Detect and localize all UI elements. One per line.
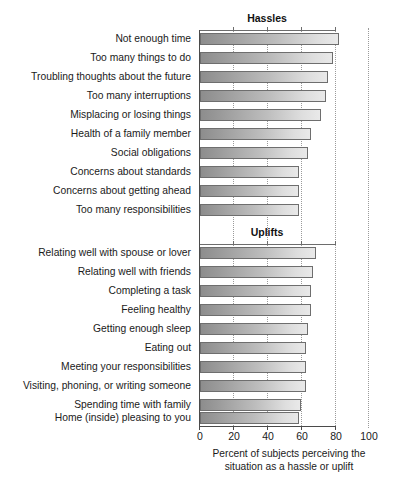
rule-tick-40 <box>267 241 268 245</box>
x-axis-caption-line1: Percent of subjects perceiving the <box>196 447 382 460</box>
bar-uplifts-4 <box>200 323 308 335</box>
category-label: Health of a family member <box>0 127 195 141</box>
category-label: Relating well with friends <box>0 265 195 279</box>
bar-uplifts-6 <box>200 361 306 373</box>
bar-hassles-9 <box>200 204 299 216</box>
category-label: Social obligations <box>0 146 195 160</box>
category-label: Concerns about standards <box>0 165 195 179</box>
category-label: Troubling thoughts about the future <box>0 70 195 84</box>
gridline-80 <box>335 28 336 428</box>
bar-hassles-7 <box>200 166 299 178</box>
category-label: Too many responsibilities <box>0 203 195 217</box>
bar-hassles-5 <box>200 128 311 140</box>
category-label: Eating out <box>0 341 195 355</box>
category-label: Meeting your responsibilities <box>0 360 195 374</box>
rule-tick-60 <box>301 27 302 31</box>
axis-tick-0 <box>199 426 200 430</box>
x-tick-label-100: 100 <box>360 430 378 442</box>
axis-tick-80 <box>335 426 336 430</box>
category-label: Completing a task <box>0 284 195 298</box>
category-label: Too many interruptions <box>0 89 195 103</box>
x-axis-caption: Percent of subjects perceiving the situa… <box>196 447 382 473</box>
category-label: Home (inside) pleasing to you <box>0 411 195 425</box>
value-axis <box>199 426 335 427</box>
category-label: Concerns about getting ahead <box>0 184 195 198</box>
axis-tick-40 <box>267 426 268 430</box>
bar-hassles-3 <box>200 90 326 102</box>
axis-tick-20 <box>233 426 234 430</box>
x-tick-label-20: 20 <box>228 430 240 442</box>
rule-tick-20 <box>233 241 234 245</box>
bar-hassles-4 <box>200 109 321 121</box>
category-label: Spending time with family <box>0 398 195 412</box>
category-label: Feeling healthy <box>0 303 195 317</box>
bar-uplifts-3 <box>200 304 311 316</box>
bar-uplifts-0 <box>200 247 316 259</box>
bar-uplifts-2 <box>200 285 311 297</box>
panel-title-uplifts: Uplifts <box>199 226 335 238</box>
bar-uplifts-7 <box>200 380 306 392</box>
axis-tick-60 <box>301 426 302 430</box>
rule-tick-40 <box>267 27 268 31</box>
x-tick-label-60: 60 <box>296 430 308 442</box>
hassles-uplifts-bar-chart: Hassles Uplifts Not enough time Too many… <box>0 0 394 482</box>
x-tick-label-40: 40 <box>262 430 274 442</box>
rule-tick-80 <box>335 27 336 31</box>
bar-hassles-1 <box>200 52 333 64</box>
category-label: Getting enough sleep <box>0 322 195 336</box>
x-tick-label-0: 0 <box>197 430 203 442</box>
bar-uplifts-1 <box>200 266 313 278</box>
bar-hassles-2 <box>200 71 328 83</box>
bar-uplifts-8 <box>200 399 301 411</box>
bar-hassles-8 <box>200 185 299 197</box>
panel-title-hassles: Hassles <box>199 12 335 24</box>
gridline-100 <box>368 28 369 428</box>
category-label: Misplacing or losing things <box>0 108 195 122</box>
x-tick-label-80: 80 <box>330 430 342 442</box>
bar-uplifts-5 <box>200 342 306 354</box>
x-axis-caption-line2: situation as a hassle or uplift <box>196 460 382 473</box>
bar-hassles-0 <box>200 33 339 45</box>
uplifts-panel-top-rule <box>199 244 335 245</box>
category-label: Relating well with spouse or lover <box>0 246 195 260</box>
category-label: Not enough time <box>0 32 195 46</box>
category-label: Too many things to do <box>0 51 195 65</box>
hassles-panel-top-rule <box>199 30 335 31</box>
bar-hassles-6 <box>200 147 308 159</box>
category-axis <box>199 30 200 426</box>
rule-tick-60 <box>301 241 302 245</box>
category-label: Visiting, phoning, or writing someone <box>0 379 195 393</box>
bar-uplifts-9 <box>200 412 299 424</box>
rule-tick-80 <box>335 241 336 245</box>
rule-tick-20 <box>233 27 234 31</box>
